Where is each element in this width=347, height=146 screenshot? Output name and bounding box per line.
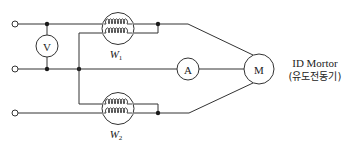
junction-dot <box>45 67 49 71</box>
motor-symbol: M <box>254 64 264 76</box>
terminal-top <box>12 21 18 27</box>
terminal-bottom <box>12 110 18 116</box>
wattmeter-w1 <box>102 13 134 45</box>
junction-dot <box>45 22 49 26</box>
motor-label: ID Mortor (유도전동기) <box>284 56 346 84</box>
wattmeter-w2-label: W2 <box>110 128 123 142</box>
motor-label-english: ID Mortor <box>284 56 346 70</box>
ammeter-symbol: A <box>184 64 192 76</box>
junction-dot <box>156 22 160 26</box>
wattmeter-w2 <box>102 93 134 125</box>
wattmeter-w1-label: W1 <box>110 48 123 62</box>
junction-dot <box>156 111 160 115</box>
wire-bottom-to-motor <box>189 83 253 113</box>
motor-label-korean: (유도전동기) <box>284 70 346 84</box>
terminal-middle <box>12 66 18 72</box>
voltmeter-symbol: V <box>43 41 51 53</box>
wire-top-to-motor <box>188 24 253 55</box>
